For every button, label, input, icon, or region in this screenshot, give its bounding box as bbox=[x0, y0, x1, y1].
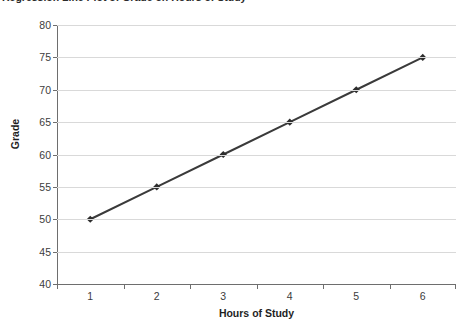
x-tick-mark bbox=[257, 284, 258, 289]
y-tick-label: 80 bbox=[5, 20, 51, 30]
y-tick-mark bbox=[53, 155, 57, 156]
gridline bbox=[57, 90, 456, 91]
gridline bbox=[57, 25, 456, 26]
x-tick-mark bbox=[57, 284, 58, 289]
x-tick-label-group: 123456 bbox=[57, 290, 456, 304]
series-line-grade bbox=[90, 57, 423, 219]
y-tick-mark bbox=[53, 219, 57, 220]
x-tick-label: 2 bbox=[137, 290, 177, 302]
y-tick-mark bbox=[53, 252, 57, 253]
x-tick-mark-group bbox=[57, 284, 456, 289]
x-tick-label: 1 bbox=[70, 290, 110, 302]
y-tick-mark bbox=[53, 25, 57, 26]
y-tick-label: 50 bbox=[5, 214, 51, 224]
chart-title-text: Regression Line Plot of Grade on Hours o… bbox=[0, 0, 467, 4]
y-tick-mark bbox=[53, 122, 57, 123]
x-tick-mark bbox=[455, 284, 456, 289]
gridline bbox=[57, 57, 456, 58]
y-tick-label: 70 bbox=[5, 85, 51, 95]
gridline bbox=[57, 219, 456, 220]
x-tick-label: 6 bbox=[403, 290, 443, 302]
gridline bbox=[57, 155, 456, 156]
x-tick-mark bbox=[390, 284, 391, 289]
x-tick-mark bbox=[190, 284, 191, 289]
x-tick-mark bbox=[124, 284, 125, 289]
x-tick-label: 5 bbox=[336, 290, 376, 302]
y-tick-label: 55 bbox=[5, 182, 51, 192]
gridline bbox=[57, 122, 456, 123]
x-tick-label: 4 bbox=[270, 290, 310, 302]
y-tick-label: 75 bbox=[5, 52, 51, 62]
y-tick-label-group: 404550556065707580 bbox=[0, 25, 51, 285]
y-tick-mark bbox=[53, 57, 57, 58]
y-tick-label: 45 bbox=[5, 247, 51, 257]
gridline bbox=[57, 252, 456, 253]
plot-area bbox=[57, 25, 456, 284]
y-tick-label: 60 bbox=[5, 150, 51, 160]
chart-title-clipped: Regression Line Plot of Grade on Hours o… bbox=[0, 0, 467, 5]
y-tick-mark bbox=[53, 284, 57, 285]
x-tick-label: 3 bbox=[203, 290, 243, 302]
y-tick-mark bbox=[53, 90, 57, 91]
y-tick-label: 65 bbox=[5, 117, 51, 127]
line-chart: Regression Line Plot of Grade on Hours o… bbox=[0, 0, 467, 326]
y-tick-mark bbox=[53, 187, 57, 188]
x-axis-title: Hours of Study bbox=[57, 307, 456, 319]
x-tick-mark bbox=[323, 284, 324, 289]
gridline bbox=[57, 187, 456, 188]
y-tick-label: 40 bbox=[5, 279, 51, 289]
